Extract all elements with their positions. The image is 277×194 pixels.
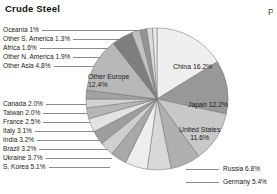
slice-label-united-states: United States 11.6%: [179, 126, 220, 142]
slice-label-india-3-2: India 3.2%: [3, 137, 34, 144]
slice-label-ukraine-3-7: Ukraine 3.7%: [3, 155, 43, 162]
slice-label-other-europe-name: Other Europe: [88, 73, 129, 80]
slice-label-canada-2-0: Canada 2.0%: [3, 101, 43, 108]
slice-label-brazil-3-2: Brazil 3.2%: [3, 146, 36, 153]
slice-label-united-states-name: United States: [179, 126, 220, 133]
slice-label-japan: Japan 12.2%: [188, 101, 228, 109]
slice-label-italy-3-1: Italy 3.1%: [3, 128, 32, 135]
leader-line-russia: [186, 169, 219, 170]
slice-label-other-s-america-1-3: Other S. America 1.3%: [3, 36, 70, 43]
pie-chart: [85, 24, 235, 174]
slice-label-s-korea-5-1: S. Korea 5.1%: [3, 164, 46, 171]
slice-label-africa-1-6: Africa 1.6%: [3, 45, 37, 52]
slice-label-other-n-america-1-9: Other N. America 1.9%: [3, 54, 70, 61]
chart-canvas: Crude Steel P Other Europe 12.4% China 1…: [0, 0, 277, 194]
chart-title: Crude Steel: [5, 3, 60, 14]
slice-label-china: China 16.2%: [173, 63, 212, 71]
slice-label-united-states-value: 11.6%: [179, 134, 220, 142]
slice-label-other-asia-4-8: Other Asia 4.8%: [3, 63, 51, 70]
slice-label-other-europe: Other Europe 12.4%: [88, 73, 129, 89]
edge-partial-text: P: [268, 7, 273, 17]
slice-label-taiwan-2-0: Taiwan 2.0%: [3, 110, 40, 117]
slice-label-oceania-1: Oceania 1%: [3, 27, 39, 34]
slice-label-germany: Germany 5.4%: [223, 179, 267, 186]
slice-label-russia: Russia 6.8%: [223, 166, 260, 173]
pie-slice-group: [86, 28, 228, 170]
slice-label-france-2-5: France 2.5%: [3, 119, 40, 126]
leader-line-germany: [186, 182, 219, 183]
slice-label-other-europe-value: 12.4%: [88, 81, 108, 88]
